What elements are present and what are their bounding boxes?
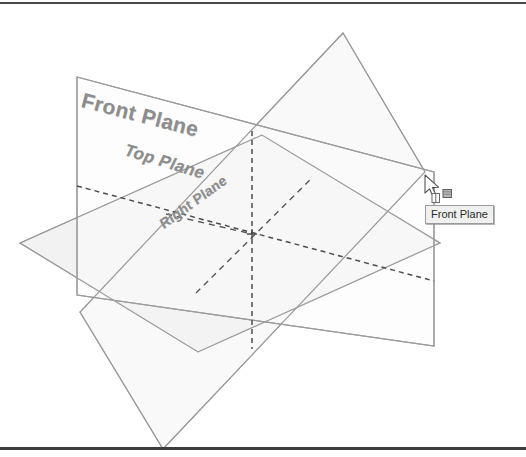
plane-tooltip: Front Plane	[425, 205, 494, 224]
viewport-canvas: .edge { fill: none; stroke: #9b9b9b; str…	[0, 0, 526, 457]
frame-bottom-rule	[0, 447, 526, 450]
planes-scene: .edge { fill: none; stroke: #9b9b9b; str…	[0, 0, 526, 457]
